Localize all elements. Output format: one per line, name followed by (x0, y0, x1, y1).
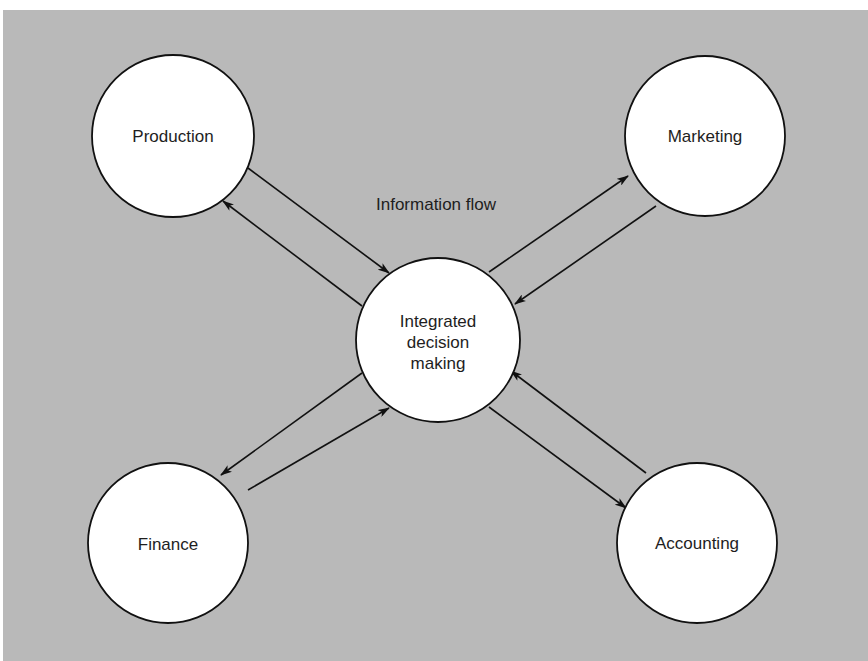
node-marketing: Marketing (625, 56, 785, 216)
node-production: Production (92, 55, 254, 217)
node-label-production: Production (132, 127, 213, 146)
edge-center-to-production (223, 201, 362, 306)
edge-accounting-to-center (511, 371, 646, 473)
node-label-finance: Finance (138, 535, 198, 554)
edge-finance-to-center (248, 408, 389, 490)
node-label-center-line-3: making (411, 354, 466, 373)
edge-production-to-center (248, 168, 389, 273)
edge-center-to-accounting (489, 407, 626, 508)
node-accounting: Accounting (617, 463, 777, 623)
node-label-center-line-2: decision (407, 333, 469, 352)
edge-center-to-marketing (489, 176, 628, 272)
information-flow-diagram: Production Marketing Integrated decision… (0, 0, 868, 661)
node-integrated-decision-making: Integrated decision making (356, 258, 520, 422)
node-label-accounting: Accounting (655, 534, 739, 553)
node-label-center-line-1: Integrated (400, 312, 477, 331)
node-finance: Finance (88, 463, 248, 623)
information-flow-label: Information flow (376, 195, 497, 214)
edge-marketing-to-center (515, 206, 656, 304)
edge-center-to-finance (221, 373, 362, 475)
node-label-marketing: Marketing (668, 127, 743, 146)
